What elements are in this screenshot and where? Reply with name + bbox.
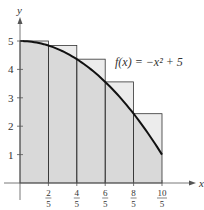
riemann-sum-chart: x y 12345 25456585105 f(x) = −x² + 5 — [0, 0, 204, 210]
x-tick-numerator: 8 — [131, 188, 136, 198]
x-tick-numerator: 4 — [75, 188, 80, 198]
x-tick-denominator: 5 — [46, 199, 51, 209]
y-tick-label: 2 — [8, 120, 14, 132]
y-tick-label: 1 — [8, 149, 14, 161]
function-label: f(x) = −x² + 5 — [115, 55, 183, 69]
y-tick-label: 5 — [8, 35, 14, 47]
x-tick-denominator: 5 — [160, 199, 165, 209]
x-tick-numerator: 10 — [158, 188, 168, 198]
y-axis-label: y — [16, 4, 22, 16]
x-axis-arrow-icon — [189, 181, 196, 186]
x-tick-denominator: 5 — [131, 199, 136, 209]
x-tick-denominator: 5 — [103, 199, 108, 209]
x-tick-numerator: 6 — [103, 188, 108, 198]
x-tick-denominator: 5 — [75, 199, 80, 209]
y-tick-label: 4 — [8, 63, 14, 75]
x-tick-numerator: 2 — [46, 188, 51, 198]
x-ticks: 25456585105 — [45, 180, 167, 209]
x-axis-label: x — [198, 177, 204, 189]
y-axis-arrow-icon — [18, 17, 23, 24]
y-tick-label: 3 — [8, 92, 14, 104]
